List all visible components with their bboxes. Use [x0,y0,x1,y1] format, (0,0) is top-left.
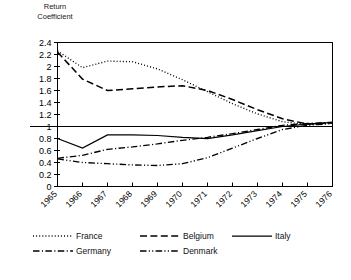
y-tick-label: 0.4 [39,158,52,168]
y-tick-label: 2.4 [39,38,52,48]
y-tick-label: 1.8 [39,74,52,84]
y-tick-label: 2.2 [39,50,52,60]
series-line-denmark [58,124,333,166]
legend: FranceBelgiumItalyGermanyDenmark [33,231,291,256]
x-tick-label: 1966 [63,189,84,210]
x-tick-label: 1974 [263,189,284,210]
x-tick-label: 1975 [288,189,309,210]
x-tick-labels: 1965196619671968196919701971197219731974… [38,189,334,210]
y-tick-labels: 00.20.40.60.811.21.41.61.822.22.4 [39,38,52,192]
y-tick-label: 1.2 [39,110,52,120]
x-tick-label: 1965 [38,189,59,210]
y-tick-label: 1.6 [39,86,52,96]
x-tick-label: 1969 [138,189,159,210]
y-tick-label: 0.2 [39,170,52,180]
legend-item-denmark[interactable]: Denmark [140,246,218,256]
legend-item-belgium[interactable]: Belgium [140,231,214,241]
legend-label: Germany [76,246,112,256]
legend-label: France [76,231,103,241]
chart-plot: 00.20.40.60.811.21.41.61.822.22.4 196519… [0,0,351,280]
legend-label: Belgium [183,231,214,241]
x-tick-label: 1972 [213,189,234,210]
legend-label: Italy [275,231,291,241]
legend-item-italy[interactable]: Italy [232,231,291,241]
x-tick-label: 1968 [113,189,134,210]
data-series-group [58,51,333,166]
x-tick-label: 1970 [163,189,184,210]
x-tick-label: 1973 [238,189,259,210]
legend-item-france[interactable]: France [33,231,103,241]
y-tick-label: 2 [46,62,51,72]
chart-figure: Return Coefficient 00.20.40.60.811.21.41… [0,0,351,280]
legend-label: Denmark [183,246,218,256]
x-tick-label: 1971 [188,189,209,210]
x-tick-label: 1976 [313,189,334,210]
y-tick-label: 0.6 [39,146,52,156]
x-tick-label: 1967 [88,189,109,210]
y-tick-label: 0.8 [39,134,52,144]
y-tick-label: 1.4 [39,98,52,108]
legend-item-germany[interactable]: Germany [33,246,112,256]
